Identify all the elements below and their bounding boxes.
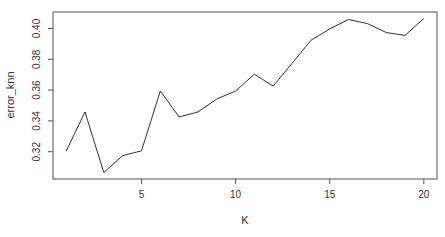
error-knn-line — [66, 19, 424, 173]
x-axis-label: K — [241, 214, 249, 226]
y-tick-label: 0.32 — [31, 142, 42, 162]
x-tick-label: 15 — [324, 189, 336, 200]
y-tick-label: 0.34 — [31, 111, 42, 131]
y-tick-label: 0.38 — [31, 49, 42, 69]
y-tick-label: 0.40 — [31, 18, 42, 38]
x-tick-label: 20 — [418, 189, 430, 200]
y-axis: 0.320.340.360.380.40 — [31, 18, 53, 161]
x-axis: 5101520 — [139, 179, 430, 200]
chart-svg: 0.320.340.360.380.40 5101520 K error_knn — [0, 0, 445, 237]
x-tick-label: 5 — [139, 189, 145, 200]
y-tick-label: 0.36 — [31, 80, 42, 100]
plot-frame — [53, 12, 437, 179]
line-chart: 0.320.340.360.380.40 5101520 K error_knn — [0, 0, 445, 237]
x-tick-label: 10 — [230, 189, 242, 200]
y-axis-label: error_knn — [4, 71, 16, 118]
